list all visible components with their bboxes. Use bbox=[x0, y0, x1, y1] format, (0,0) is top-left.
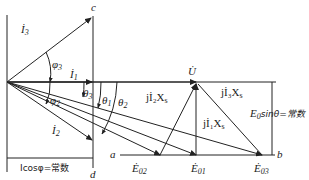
theta1-arc bbox=[98, 82, 101, 108]
label-b: b bbox=[277, 148, 283, 160]
label-d: d bbox=[90, 168, 96, 180]
theta2-arc bbox=[102, 82, 117, 134]
label-u: U̇ bbox=[188, 65, 197, 77]
label-ji2xs: jİ₂Xs bbox=[145, 91, 168, 105]
phasor-svg: İ3 c φ3 İ1 φ2 θ3 θ1 θ2 İ2 U̇ jİ₂Xs jİ₃Xs… bbox=[0, 0, 309, 180]
label-ji3xs: jİ₃Xs bbox=[220, 86, 243, 100]
label-icos: Icosφ=常数 bbox=[20, 162, 69, 173]
phi3-arc bbox=[46, 52, 51, 82]
label-theta2: θ2 bbox=[118, 96, 127, 110]
i3-phasor bbox=[7, 18, 91, 82]
label-i1: İ1 bbox=[69, 68, 78, 82]
label-theta1: θ1 bbox=[102, 94, 111, 108]
label-e02: Ė02 bbox=[131, 162, 147, 176]
ji2xs-phasor bbox=[160, 84, 196, 155]
label-c: c bbox=[91, 1, 96, 13]
label-a: a bbox=[110, 148, 116, 160]
label-ji1xs: jİ₁Xs bbox=[202, 117, 225, 131]
label-i3: İ3 bbox=[20, 23, 29, 37]
label-e0sin: E0sinθ=常数 bbox=[249, 107, 306, 121]
label-theta3: θ3 bbox=[83, 87, 92, 101]
label-phi3: φ3 bbox=[52, 58, 62, 72]
e01-phasor bbox=[7, 82, 196, 155]
label-e03: Ė03 bbox=[253, 162, 269, 176]
label-phi2: φ2 bbox=[50, 94, 60, 108]
phasor-diagram: İ3 c φ3 İ1 φ2 θ3 θ1 θ2 İ2 U̇ jİ₂Xs jİ₃Xs… bbox=[0, 0, 309, 180]
label-e01: Ė01 bbox=[190, 162, 206, 176]
label-i2: İ2 bbox=[51, 124, 60, 138]
